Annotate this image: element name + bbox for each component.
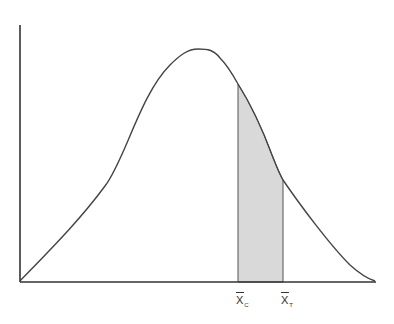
distribution-curve — [20, 49, 375, 281]
label-sub: C — [244, 302, 248, 308]
overbar — [281, 292, 289, 293]
label-x-bar-t: XT — [281, 295, 293, 306]
label-x-bar-c: XC — [236, 295, 249, 306]
label-main: X — [236, 294, 243, 306]
shaded-region — [238, 84, 283, 282]
label-main: X — [281, 294, 288, 306]
overbar — [236, 292, 244, 293]
distribution-diagram — [0, 0, 394, 324]
label-sub: T — [289, 302, 293, 308]
